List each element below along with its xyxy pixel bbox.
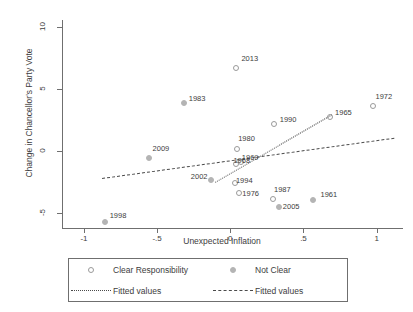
data-point	[271, 121, 277, 127]
data-point	[270, 196, 276, 202]
y-axis-line	[62, 20, 63, 228]
data-point	[233, 65, 239, 71]
legend-dotted-line-icon	[69, 280, 113, 301]
x-tick	[157, 228, 158, 233]
data-point-label: 1990	[280, 115, 297, 124]
data-point-label: 2013	[241, 54, 258, 63]
data-point	[370, 103, 376, 109]
data-point-label: 2002	[191, 172, 208, 181]
data-point	[310, 197, 316, 203]
data-point-label: 1980	[238, 134, 255, 143]
legend-open-circle-icon	[69, 259, 113, 280]
data-point	[276, 204, 282, 210]
data-point	[146, 155, 152, 161]
y-tick-label: 5	[38, 77, 47, 101]
y-tick	[57, 89, 62, 90]
legend-dashed-line-icon	[211, 280, 255, 301]
legend-label-fitted-values-dotted: Fitted values	[113, 286, 161, 296]
data-point-label: 1998	[110, 211, 127, 220]
legend-label-clear-responsibility: Clear Responsibility	[113, 265, 188, 275]
x-tick	[230, 228, 231, 233]
y-tick-label: 10	[38, 15, 47, 39]
data-point	[208, 177, 214, 183]
x-axis-line	[62, 228, 403, 229]
data-point-label: 1965	[335, 108, 352, 117]
x-tick	[84, 228, 85, 233]
data-point	[327, 114, 333, 120]
x-tick-label: -1	[69, 234, 99, 243]
x-tick	[377, 228, 378, 233]
data-point-label: 1987	[274, 185, 291, 194]
data-point-label: 1976	[242, 189, 259, 198]
data-point-label: 1961	[321, 190, 338, 199]
legend-label-fitted-values-dashed: Fitted values	[255, 286, 303, 296]
data-point-label: 1983	[189, 94, 206, 103]
y-tick-label: 0	[38, 139, 47, 163]
data-point	[181, 100, 187, 106]
x-tick-label: .5	[288, 234, 318, 243]
scatter-plot-figure: Change in Chancellor's Party Vote Unexpe…	[0, 0, 413, 312]
chart-legend: Clear Responsibility Not Clear Fitted va…	[68, 258, 348, 302]
y-tick	[57, 213, 62, 214]
x-tick	[303, 228, 304, 233]
y-axis-label: Change in Chancellor's Party Vote	[24, 18, 34, 208]
data-point	[102, 219, 108, 225]
data-point	[234, 146, 240, 152]
x-tick-label: -.5	[142, 234, 172, 243]
data-point-label: 2005	[283, 202, 300, 211]
legend-label-not-clear: Not Clear	[255, 265, 291, 275]
data-point-label: 1968	[233, 156, 250, 165]
x-tick-label: 1	[362, 234, 392, 243]
x-tick-label: 0	[215, 234, 245, 243]
y-tick	[57, 151, 62, 152]
data-point-label: 2009	[153, 144, 170, 153]
y-tick	[57, 27, 62, 28]
y-tick-label: -5	[38, 201, 47, 225]
legend-filled-dot-icon	[211, 259, 255, 280]
data-point-label: 1994	[236, 176, 253, 185]
data-point-label: 1972	[376, 92, 393, 101]
